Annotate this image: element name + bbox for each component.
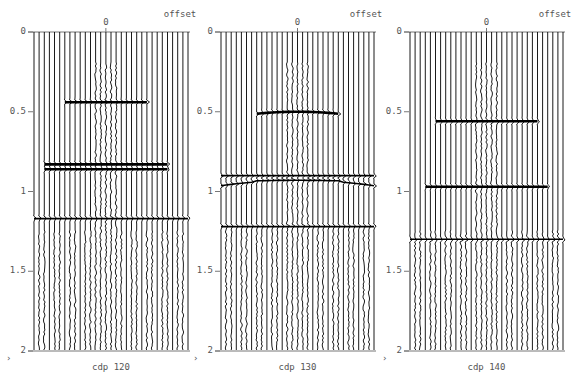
trace [131, 32, 134, 350]
trace [410, 32, 412, 350]
offset-zero-label: 0 [484, 17, 489, 27]
trace [90, 32, 93, 350]
trace [286, 32, 290, 350]
trace [266, 32, 269, 350]
y-tick-label: 0 [208, 26, 213, 36]
y-tick-label: 0 [397, 26, 402, 36]
panel-title: cdp 130 [279, 362, 317, 372]
panel-title: cdp 140 [468, 362, 506, 372]
y-tick-label: 1 [21, 186, 26, 196]
trace [74, 32, 77, 350]
trace [348, 32, 351, 350]
trace [502, 32, 504, 350]
trace [146, 32, 149, 350]
y-tick-label: 2 [21, 345, 26, 355]
trace [105, 32, 109, 350]
trace [374, 32, 377, 350]
trace [552, 32, 555, 350]
trace [167, 32, 170, 350]
trace [110, 32, 114, 350]
y-tick-label: 1.5 [386, 265, 402, 275]
y-tick-label: 2 [208, 345, 213, 355]
trace [486, 32, 489, 350]
trace [527, 32, 530, 350]
trace [65, 32, 68, 350]
trace [542, 32, 545, 350]
trace [435, 32, 438, 350]
trace [317, 32, 320, 350]
trace [95, 32, 98, 350]
offset-axis-label: offset [164, 9, 197, 19]
y-tick-label: 1 [397, 186, 402, 196]
trace [481, 32, 484, 350]
trace [291, 32, 295, 350]
trace [256, 32, 259, 350]
panel-2 [215, 28, 377, 351]
trace [312, 32, 315, 350]
trace [532, 32, 534, 350]
trace [54, 32, 57, 350]
trace [59, 32, 62, 350]
trace [517, 32, 519, 350]
y-tick-label: 0.5 [197, 106, 213, 116]
trace [425, 32, 427, 350]
trace [460, 32, 464, 350]
trace [85, 32, 88, 350]
offset-axis-label: offset [350, 9, 383, 19]
offset-axis-label: offset [539, 9, 572, 19]
trace [182, 32, 185, 350]
trace [419, 32, 421, 350]
trace [430, 32, 433, 350]
trace [271, 32, 274, 350]
y-tick-label: 1.5 [10, 265, 26, 275]
trace [151, 32, 154, 350]
trace [251, 32, 254, 350]
trace [368, 32, 371, 350]
trace [471, 32, 473, 350]
trace [307, 32, 311, 350]
y-tick-label: 1.5 [197, 265, 213, 275]
trace [121, 32, 124, 350]
trace [537, 32, 540, 350]
trace [338, 32, 341, 350]
trace [162, 32, 165, 350]
trace [172, 32, 174, 350]
trace [343, 32, 346, 350]
trace [188, 32, 190, 350]
offset-zero-label: 0 [295, 17, 300, 27]
reflection-event [257, 112, 339, 114]
trace [450, 32, 453, 350]
trace [157, 32, 160, 350]
offset-zero-label: 0 [103, 17, 108, 27]
trace [547, 32, 549, 350]
trace [563, 32, 565, 350]
y-tick-label: 0.5 [10, 106, 26, 116]
trace [363, 32, 366, 350]
trace [221, 32, 224, 350]
trace [276, 32, 279, 350]
trace [440, 32, 442, 350]
trace [297, 32, 301, 350]
trace [80, 32, 83, 350]
trace [476, 32, 479, 350]
y-tick-label: 0 [21, 26, 26, 36]
trace [332, 32, 335, 350]
y-tick-label: 0.5 [386, 106, 402, 116]
trace [322, 32, 325, 350]
trace [557, 32, 559, 350]
side-mark: › [382, 353, 387, 363]
trace [353, 32, 356, 350]
trace [177, 32, 180, 350]
y-tick-label: 1 [208, 186, 213, 196]
trace [38, 32, 41, 350]
trace [414, 32, 417, 350]
trace [261, 32, 264, 350]
side-mark: › [193, 353, 198, 363]
trace [246, 32, 249, 350]
trace [230, 32, 233, 350]
trace [506, 32, 509, 350]
trace [49, 32, 52, 350]
trace [445, 32, 448, 350]
panel-1 [28, 28, 190, 351]
trace [241, 32, 244, 350]
